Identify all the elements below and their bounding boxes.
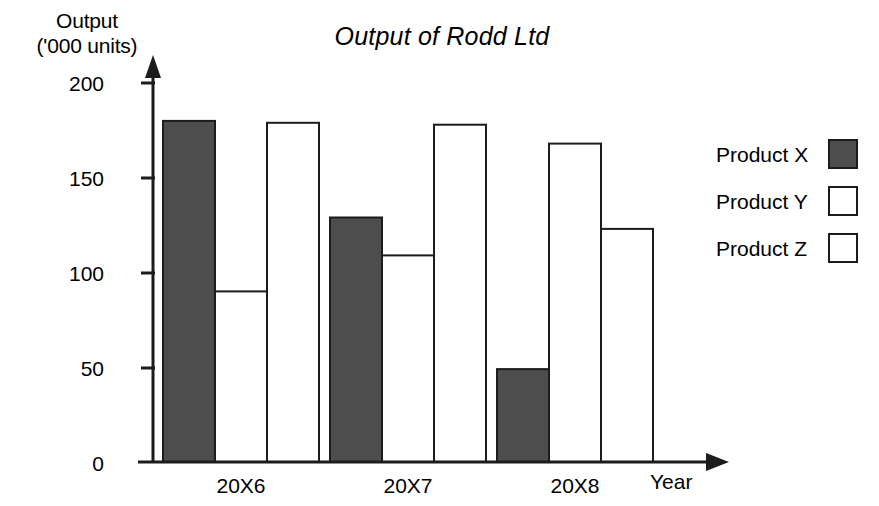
legend-label-product-y: Product Y <box>716 191 828 212</box>
bar-20X8-product-z <box>601 229 653 462</box>
bar-20X8-product-x <box>497 369 549 462</box>
x-axis-title: Year <box>650 470 692 494</box>
bar-20X6-product-y <box>215 291 267 462</box>
bar-chart: Output ('000 units) Output of Rodd Ltd 2… <box>0 0 879 506</box>
chart-legend: Product X Product Y Product Z <box>716 132 876 273</box>
bar-20X6-product-z <box>267 123 319 462</box>
legend-label-product-z: Product Z <box>716 238 828 259</box>
x-tick-label-20X6: 20X6 <box>176 475 306 496</box>
legend-item-product-y: Product Y <box>716 179 876 223</box>
legend-label-product-x: Product X <box>716 144 828 165</box>
y-tick-label-50: 50 <box>28 358 104 379</box>
legend-swatch-product-z <box>828 233 858 263</box>
legend-item-product-x: Product X <box>716 132 876 176</box>
x-tick-label-20X8: 20X8 <box>510 475 640 496</box>
bar-20X7-product-x <box>330 218 382 463</box>
bar-20X7-product-y <box>382 255 434 462</box>
bar-20X8-product-y <box>549 144 601 462</box>
y-tick-label-0: 0 <box>28 453 104 474</box>
y-tick-label-100: 100 <box>28 263 104 284</box>
y-tick-label-200: 200 <box>28 73 104 94</box>
x-axis-arrowhead <box>706 453 729 471</box>
x-tick-label-20X7: 20X7 <box>343 475 473 496</box>
bar-20X6-product-x <box>163 121 215 462</box>
legend-swatch-product-x <box>828 139 858 169</box>
y-axis-arrowhead <box>145 55 161 78</box>
legend-swatch-product-y <box>828 186 858 216</box>
y-tick-label-150: 150 <box>28 168 104 189</box>
legend-item-product-z: Product Z <box>716 226 876 270</box>
bar-20X7-product-z <box>434 125 486 462</box>
